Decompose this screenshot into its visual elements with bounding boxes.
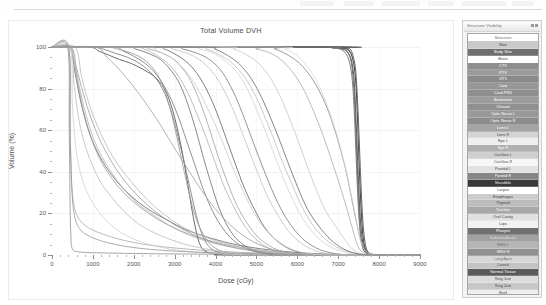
dvh-curve	[52, 47, 420, 255]
legend-row[interactable]: Brain	[468, 56, 538, 63]
legend-row[interactable]: Parotid L	[468, 166, 538, 173]
x-tick-major	[134, 255, 135, 259]
x-tick-minor	[371, 255, 372, 257]
legend-row[interactable]: Eye L	[468, 138, 538, 145]
dvh-curve	[52, 45, 420, 255]
legend-row[interactable]: Eye R	[468, 145, 538, 152]
legend-row-label: SMG R	[496, 250, 509, 254]
dvh-curve	[52, 47, 420, 255]
x-tick-minor	[142, 255, 143, 257]
toolbar-ghost-item	[428, 1, 454, 6]
legend-row[interactable]: Cochlea L	[468, 152, 538, 159]
legend-row-container[interactable]: SkinBody SkinBrainCTVPTVGTVCordCord PRVB…	[468, 42, 538, 295]
y-tick-minor	[50, 120, 52, 121]
x-tick-minor	[150, 255, 151, 257]
legend-row-label: GTV	[499, 77, 507, 81]
y-tick-major	[48, 172, 52, 173]
legend-row[interactable]: Lung Apex	[468, 256, 538, 263]
legend-row-label: Cochlea R	[494, 160, 513, 164]
legend-row[interactable]: Parotid R	[468, 173, 538, 180]
legend-row[interactable]: Cord PRV	[468, 90, 538, 97]
y-tick-label: 0	[43, 252, 46, 258]
dvh-curve	[52, 44, 420, 255]
x-tick-minor	[265, 255, 266, 257]
y-tick-major	[48, 89, 52, 90]
x-tick-minor	[77, 255, 78, 257]
x-tick-minor	[363, 255, 364, 257]
legend-row[interactable]: Skin	[468, 42, 538, 49]
legend-row[interactable]: Carotid	[468, 263, 538, 270]
dvh-curve	[52, 47, 420, 255]
dvh-curve	[52, 47, 420, 255]
x-tick-minor	[355, 255, 356, 257]
legend-row[interactable]: Pharynx	[468, 228, 538, 235]
dvh-curve	[52, 47, 420, 255]
legend-row-label: Parotid L	[495, 167, 511, 171]
dvh-curve	[52, 47, 420, 255]
dvh-curve	[52, 45, 420, 255]
legend-row-label: Optic Nerve R	[490, 119, 515, 123]
close-icon[interactable]	[535, 24, 538, 27]
y-tick-major	[48, 47, 52, 48]
legend-row-label: Chiasm	[496, 105, 510, 109]
legend-row[interactable]: Shell	[468, 290, 538, 295]
legend-row[interactable]: Cord	[468, 83, 538, 90]
legend-list[interactable]: Structure SkinBody SkinBrainCTVPTVGTVCor…	[467, 33, 539, 295]
legend-row[interactable]: Larynx	[468, 187, 538, 194]
legend-row[interactable]: Cochlea R	[468, 159, 538, 166]
legend-header-label: Structure	[495, 35, 512, 40]
legend-row-label: Body Skin	[494, 50, 512, 54]
legend-row[interactable]: Ring 2cm	[468, 283, 538, 290]
y-tick-minor	[50, 141, 52, 142]
legend-row[interactable]: Mandible	[468, 180, 538, 187]
x-tick-major	[216, 255, 217, 259]
y-tick-minor	[50, 78, 52, 79]
y-tick-label: 20	[39, 210, 46, 216]
legend-row[interactable]: Body Skin	[468, 49, 538, 56]
x-tick-label: 8000	[372, 261, 385, 267]
legend-row[interactable]: Chiasm	[468, 104, 538, 111]
legend-row[interactable]: SMG R	[468, 249, 538, 256]
y-tick-minor	[50, 151, 52, 152]
legend-row[interactable]: Optic Nerve L	[468, 111, 538, 118]
legend-row-label: Brainstem	[494, 98, 512, 102]
legend-row[interactable]: Normal Tissue	[468, 269, 538, 276]
plot-area[interactable]	[52, 47, 420, 255]
legend-window-buttons[interactable]	[531, 24, 539, 27]
y-tick-minor	[50, 193, 52, 194]
legend-row[interactable]: CTV	[468, 63, 538, 70]
dvh-curve	[52, 47, 420, 255]
legend-row[interactable]: SMG L	[468, 242, 538, 249]
legend-title-bar[interactable]: Structure Visibility	[464, 22, 540, 32]
dvh-curve	[52, 47, 420, 255]
legend-row[interactable]: PTV	[468, 70, 538, 77]
legend-row[interactable]: Ring 1cm	[468, 276, 538, 283]
legend-row[interactable]: GTV	[468, 76, 538, 83]
legend-row[interactable]: Trachea	[468, 207, 538, 214]
legend-row[interactable]: Oral Cavity	[468, 214, 538, 221]
legend-row-label: Normal Tissue	[490, 270, 516, 274]
legend-row[interactable]: Lens R	[468, 132, 538, 139]
legend-row[interactable]: Brainstem	[468, 97, 538, 104]
legend-row-label: Eye L	[498, 139, 508, 143]
legend-row[interactable]: Submandibular	[468, 235, 538, 242]
legend-row[interactable]: Thyroid	[468, 200, 538, 207]
y-tick-minor	[50, 182, 52, 183]
legend-row[interactable]: Optic Nerve R	[468, 118, 538, 125]
legend-row-label: Esophagus	[493, 195, 513, 199]
legend-row-label: Lung Apex	[494, 257, 513, 261]
x-tick-minor	[248, 255, 249, 257]
minimize-icon[interactable]	[531, 24, 534, 27]
legend-row[interactable]: Esophagus	[468, 194, 538, 201]
x-tick-minor	[273, 255, 274, 257]
x-tick-major	[52, 255, 53, 259]
legend-row[interactable]: Lips	[468, 221, 538, 228]
legend-row[interactable]: Lens L	[468, 125, 538, 132]
dvh-curve	[52, 45, 420, 255]
legend-row-label: Cord	[499, 84, 508, 88]
legend-row-label: Parotid R	[495, 174, 512, 178]
legend-row-label: Mandible	[495, 181, 511, 185]
x-tick-minor	[117, 255, 118, 257]
legend-row-label: Optic Nerve L	[491, 112, 515, 116]
dvh-curve	[52, 47, 420, 255]
